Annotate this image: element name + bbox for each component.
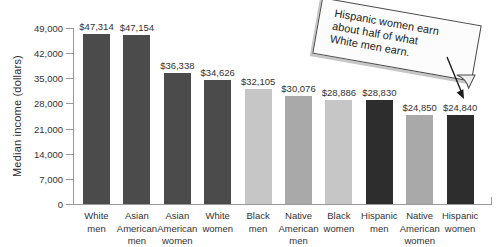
y-tick-mark bbox=[66, 103, 73, 104]
y-tick-label: 42,000 bbox=[21, 48, 63, 59]
y-tick-mark bbox=[66, 204, 73, 205]
bar-hispanic-women bbox=[447, 115, 474, 204]
bar-value-label: $24,840 bbox=[430, 102, 490, 113]
bar-value-label: $47,154 bbox=[107, 22, 167, 33]
y-tick-mark bbox=[66, 78, 73, 79]
category-label-line: women bbox=[152, 235, 202, 247]
y-axis bbox=[73, 28, 74, 205]
y-tick-mark bbox=[66, 179, 73, 180]
y-tick-label: 35,000 bbox=[21, 73, 63, 84]
bar-white-men bbox=[83, 34, 110, 204]
y-tick-label: 28,000 bbox=[21, 98, 63, 109]
x-axis-end-tick bbox=[491, 197, 492, 204]
bar-hispanic-men bbox=[366, 100, 393, 204]
y-tick-label: 21,000 bbox=[21, 124, 63, 135]
category-label-line: women bbox=[435, 223, 485, 236]
y-tick-mark bbox=[66, 154, 73, 155]
y-tick-mark bbox=[66, 53, 73, 54]
category-label-line: women bbox=[395, 235, 445, 247]
bar-white-women bbox=[204, 80, 231, 204]
y-tick-label: 0 bbox=[21, 199, 63, 210]
y-tick-label: 7,000 bbox=[21, 174, 63, 185]
category-label: Hispanicwomen bbox=[435, 210, 485, 235]
y-tick-label: 14,000 bbox=[21, 149, 63, 160]
y-tick-label: 49,000 bbox=[21, 23, 63, 34]
bar-value-label: $28,830 bbox=[349, 87, 409, 98]
bar-black-women bbox=[325, 100, 352, 204]
x-axis bbox=[73, 204, 492, 205]
bar-chart-figure: Median income (dollars) 07,00014,00021,0… bbox=[0, 0, 500, 247]
y-tick-mark bbox=[66, 129, 73, 130]
page-curl-icon bbox=[454, 71, 476, 90]
bar-black-men bbox=[245, 89, 272, 204]
category-label-line: Hispanic bbox=[435, 210, 485, 223]
annotation-text: Hispanic women earnabout half of whatWhi… bbox=[329, 7, 476, 70]
annotation-callout: Hispanic women earnabout half of whatWhi… bbox=[312, 0, 481, 82]
bar-native-american-men bbox=[285, 96, 312, 204]
category-label-line: men bbox=[274, 235, 324, 247]
bar-asian-american-women bbox=[164, 73, 191, 204]
bar-native-american-women bbox=[406, 115, 433, 204]
